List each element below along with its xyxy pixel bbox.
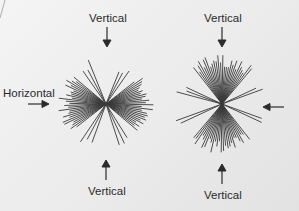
label-vertical-top-right: Vertical: [204, 12, 242, 24]
label-vertical-top-left: Vertical: [89, 12, 127, 24]
fan-vertical-bias: [176, 55, 263, 152]
arrow-bottom-left: [102, 160, 110, 180]
arrow-bottom-right: [218, 164, 226, 184]
arrow-right-horizontal: [263, 104, 284, 111]
arrow-top-left: [103, 27, 111, 47]
label-vertical-bottom-right: Vertical: [204, 189, 242, 201]
arrow-top-right: [218, 27, 226, 47]
arrow-left-horizontal: [28, 101, 49, 108]
fan-horizontal-bias: [59, 60, 154, 145]
orientation-fans: [0, 0, 299, 211]
figure-canvas: Vertical Horizontal Vertical Vertical Ve…: [0, 0, 299, 211]
label-horizontal: Horizontal: [3, 87, 55, 99]
label-vertical-bottom-left: Vertical: [88, 185, 126, 197]
